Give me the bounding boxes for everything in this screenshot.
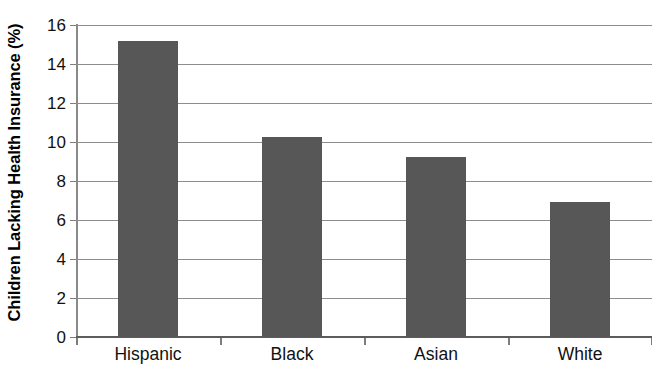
y-axis-tick-label: 0 bbox=[26, 328, 66, 345]
y-axis-tick-label: 10 bbox=[26, 133, 66, 150]
y-axis-tick-label: 4 bbox=[26, 250, 66, 267]
bar bbox=[406, 157, 466, 336]
y-axis-tick-label: 6 bbox=[26, 211, 66, 228]
y-axis-tick-label: 14 bbox=[26, 55, 66, 72]
x-axis-category-label: Black bbox=[220, 344, 364, 364]
y-axis-tick-label: 8 bbox=[26, 172, 66, 189]
y-axis-tick-label: 2 bbox=[26, 289, 66, 306]
bar-chart: Children Lacking Health Insurance (%) 02… bbox=[0, 0, 662, 371]
x-axis-category-label: Hispanic bbox=[76, 344, 220, 364]
bar bbox=[550, 202, 610, 337]
gridline bbox=[76, 337, 652, 339]
bar bbox=[118, 41, 178, 336]
x-axis-category-label: Asian bbox=[364, 344, 508, 364]
y-axis-tick-label: 16 bbox=[26, 16, 66, 33]
bar bbox=[262, 137, 322, 337]
y-axis-title-text: Children Lacking Health Insurance (%) bbox=[6, 24, 25, 322]
plot-area bbox=[76, 25, 652, 337]
y-axis-tick-labels: 0246810121416 bbox=[28, 0, 72, 371]
x-axis-category-label: White bbox=[508, 344, 652, 364]
y-axis-tick-label: 12 bbox=[26, 94, 66, 111]
gridline bbox=[76, 25, 652, 26]
x-axis-category-labels: HispanicBlackAsianWhite bbox=[76, 344, 652, 371]
